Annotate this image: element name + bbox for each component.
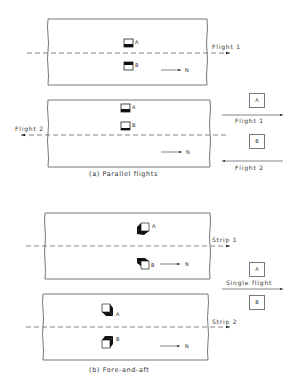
strip-b-strip-1 <box>26 213 230 279</box>
legend-flight-2-label: Flight 2 <box>235 164 264 171</box>
strip-2-label: Strip 2 <box>212 318 237 325</box>
north-label: N <box>186 149 190 155</box>
photo-a-label: A <box>135 39 138 45</box>
legend-flight-1-label: Flight 1 <box>235 117 264 124</box>
diagram-graphics <box>0 0 301 389</box>
photo-b-label: B <box>132 122 135 128</box>
legend-box-b: B <box>249 134 265 149</box>
flight-2-label: Flight 2 <box>15 125 44 132</box>
single-flight-label: Single flight <box>226 279 272 286</box>
strip-a-flight-1 <box>27 19 230 85</box>
photo-a-label: A <box>132 104 135 110</box>
caption-fore-and-aft: (b) Fore-and-aft <box>89 366 150 374</box>
north-label: N <box>185 67 189 73</box>
caption-parallel-flights: (a) Parallel flights <box>89 170 158 178</box>
legend-box-a: A <box>249 93 265 108</box>
strip-b-strip-2 <box>26 294 230 360</box>
north-label: N <box>185 343 189 349</box>
north-label: N <box>185 261 189 267</box>
strip-a-flight-2 <box>21 100 226 167</box>
photo-b-label: B <box>116 336 119 342</box>
strip-1-label: Strip 1 <box>212 236 237 243</box>
photo-b-label: B <box>151 262 154 268</box>
photo-a-label: A <box>116 311 119 317</box>
legend-box-a: A <box>249 262 265 277</box>
photo-b-label: B <box>135 62 138 68</box>
legend-box-b: B <box>249 295 265 310</box>
photo-a-label: A <box>152 223 155 229</box>
flight-1-label: Flight 1 <box>212 43 241 50</box>
